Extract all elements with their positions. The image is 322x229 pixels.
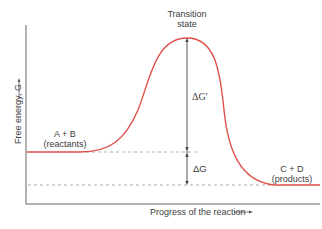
reactants-line2: (reactants) — [40, 139, 90, 149]
products-line1: C + D — [267, 164, 317, 174]
products-label: C + D (products) — [267, 164, 317, 184]
reactants-label: A + B (reactants) — [40, 129, 90, 149]
transition-state-line2: state — [162, 19, 212, 29]
energy-curve — [27, 38, 320, 185]
reactants-line1: A + B — [40, 129, 90, 139]
arrowhead-up-icon — [185, 153, 188, 157]
arrowhead-down-icon — [185, 147, 188, 151]
products-line2: (products) — [267, 174, 317, 184]
transition-state-line1: Transition — [162, 9, 212, 19]
arrowhead-right-icon — [249, 211, 253, 214]
y-axis-label: Free energy, G — [13, 64, 23, 164]
arrowhead-down-icon — [185, 181, 188, 185]
x-axis-label: Progress of the reaction — [150, 207, 246, 217]
free-energy-change-label: ΔG — [193, 164, 207, 174]
energy-diagram — [0, 0, 322, 229]
transition-state-label: Transition state — [162, 9, 212, 29]
activation-energy-label: ΔG' — [192, 92, 207, 102]
